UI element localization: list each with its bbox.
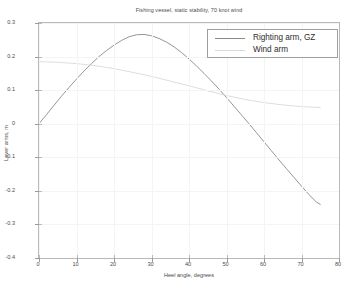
y-axis-tick-inner — [39, 157, 42, 158]
y-axis-tick-inner — [39, 191, 42, 192]
x-axis-tick-inner — [39, 255, 40, 258]
legend-label: Righting arm, GZ — [253, 33, 315, 43]
y-axis-tick-label: -0.3 — [0, 220, 15, 226]
gridline-vertical — [189, 23, 190, 258]
x-axis-tick-label: 80 — [327, 261, 349, 267]
x-axis-tick-label: 20 — [102, 261, 124, 267]
x-axis-tick-inner — [114, 255, 115, 258]
legend-box[interactable]: Righting arm, GZ Wind arm — [207, 29, 338, 58]
legend-item: Righting arm, GZ — [208, 32, 337, 44]
legend-label: Wind arm — [253, 45, 288, 55]
x-axis-tick-label: 0 — [27, 261, 49, 267]
x-axis-tick-label: 10 — [65, 261, 87, 267]
gridline-vertical — [302, 23, 303, 258]
y-axis-tick-inner — [39, 57, 42, 58]
x-axis-tick-inner — [77, 255, 78, 258]
x-axis-tick-inner — [152, 255, 153, 258]
x-axis-tick-label: 60 — [252, 261, 274, 267]
y-axis-tick-label: -0.2 — [0, 187, 15, 193]
x-axis-tick-label: 40 — [177, 261, 199, 267]
legend-swatch-righting-arm — [215, 34, 245, 42]
gridline-vertical — [264, 23, 265, 258]
x-axis-tick-label: 30 — [140, 261, 162, 267]
gridline-vertical — [39, 23, 40, 258]
figure-canvas: Fishing vessel, static stability, 70 kno… — [0, 0, 358, 291]
gridline-vertical — [77, 23, 78, 258]
y-axis-tick-label: 0 — [0, 120, 15, 126]
x-axis-tick-inner — [227, 255, 228, 258]
y-axis-tick-inner — [39, 224, 42, 225]
x-axis-tick-label: 50 — [215, 261, 237, 267]
gridline-vertical — [152, 23, 153, 258]
y-axis-tick-label: -0.4 — [0, 254, 15, 260]
y-axis-tick-label: -0.1 — [0, 153, 15, 159]
x-axis-tick-inner — [302, 255, 303, 258]
y-axis-tick-inner — [39, 90, 42, 91]
plot-inner — [39, 23, 339, 258]
legend-swatch-wind-arm — [215, 46, 245, 54]
series-line-righting-arm — [39, 34, 320, 204]
y-axis-tick-label: 0.3 — [0, 19, 15, 25]
gridline-vertical — [227, 23, 228, 258]
x-axis-tick-inner — [264, 255, 265, 258]
y-axis-tick-inner — [39, 124, 42, 125]
page-title: Fishing vessel, static stability, 70 kno… — [38, 7, 340, 13]
x-axis-tick-inner — [339, 255, 340, 258]
x-axis-title: Heel angle, degrees — [38, 272, 340, 278]
x-axis-tick-inner — [189, 255, 190, 258]
series-line-wind-arm — [39, 62, 320, 108]
legend-item: Wind arm — [208, 44, 337, 56]
x-axis-tick-label: 70 — [290, 261, 312, 267]
y-axis-tick-label: 0.1 — [0, 86, 15, 92]
y-axis-tick-label: 0.2 — [0, 53, 15, 59]
y-axis-tick-inner — [39, 23, 42, 24]
gridline-vertical — [114, 23, 115, 258]
